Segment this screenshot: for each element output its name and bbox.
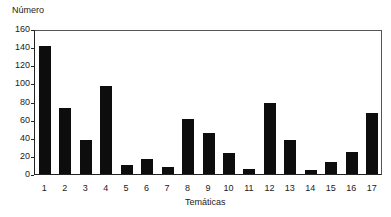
y-axis-title: Número [12, 5, 44, 15]
bar [203, 133, 215, 174]
bar [346, 152, 358, 174]
bar [39, 46, 51, 174]
x-tick-label: 7 [157, 183, 177, 193]
bar [141, 159, 153, 174]
bar [59, 108, 71, 174]
bar [325, 162, 337, 174]
bar [366, 113, 378, 174]
y-tick-label: 60 [0, 115, 30, 125]
bar [264, 103, 276, 175]
bar [100, 86, 112, 174]
bar [284, 140, 296, 174]
bar [305, 170, 317, 174]
y-tick-label: 140 [0, 42, 30, 52]
y-tick-label: 40 [0, 133, 30, 143]
x-tick-label: 15 [321, 183, 341, 193]
y-tick-label: 120 [0, 60, 30, 70]
bar [162, 167, 174, 174]
x-axis-title: Temáticas [185, 197, 226, 207]
bar [182, 119, 194, 174]
x-tick-label: 5 [116, 183, 136, 193]
plot-area [34, 30, 382, 175]
bar [121, 165, 133, 174]
x-tick-label: 4 [96, 183, 116, 193]
x-tick-label: 12 [259, 183, 279, 193]
bar [80, 140, 92, 174]
y-tick-label: 20 [0, 151, 30, 161]
x-tick-label: 1 [34, 183, 54, 193]
x-tick-label: 10 [218, 183, 238, 193]
bar [243, 169, 255, 174]
x-tick-label: 9 [198, 183, 218, 193]
y-tick-label: 100 [0, 78, 30, 88]
x-tick-label: 3 [75, 183, 95, 193]
x-tick-label: 2 [55, 183, 75, 193]
y-tick-label: 80 [0, 97, 30, 107]
x-tick-label: 14 [300, 183, 320, 193]
x-tick-label: 16 [341, 183, 361, 193]
y-tick-label: 160 [0, 24, 30, 34]
x-tick-label: 13 [280, 183, 300, 193]
x-tick-label: 8 [178, 183, 198, 193]
x-tick-label: 11 [239, 183, 259, 193]
bar [223, 153, 235, 174]
y-tick-mark [31, 175, 34, 176]
y-tick-label: 0 [0, 169, 30, 179]
x-tick-label: 6 [137, 183, 157, 193]
x-tick-label: 17 [362, 183, 382, 193]
